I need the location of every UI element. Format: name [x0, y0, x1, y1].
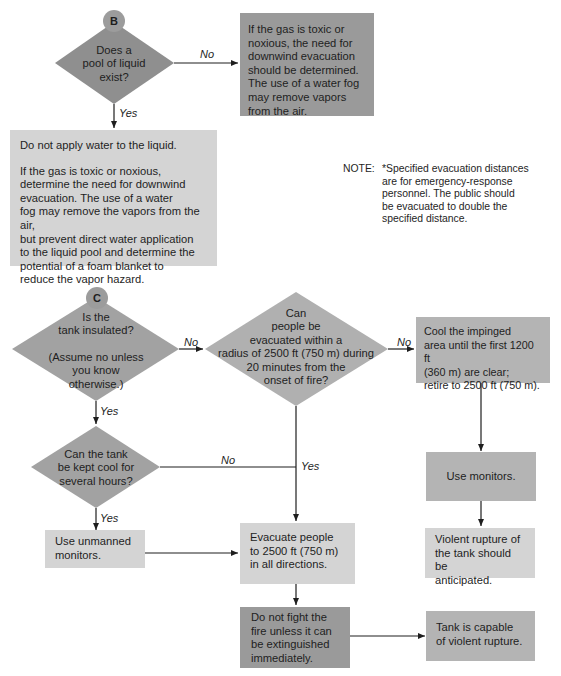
box-use-monitors: Use monitors.: [426, 452, 536, 501]
decision-insulated-text: Is the tank insulated? (Assume no unless…: [40, 311, 152, 391]
label-yes: Yes: [301, 460, 319, 472]
label-no: No: [397, 336, 411, 348]
box-use-unmanned-monitors: Use unmanned monitors.: [45, 530, 145, 568]
connector-b: B: [103, 10, 125, 32]
label-yes: Yes: [100, 405, 118, 417]
box-evacuate-people: Evacuate people to 2500 ft (750 m) in al…: [240, 523, 355, 584]
decision-pool-text: Does a pool of liquid exist?: [70, 44, 158, 84]
box-cool-impinged-area: Cool the impinged area until the first 1…: [416, 317, 550, 383]
label-yes: Yes: [100, 512, 118, 524]
box-toxic-gas: If the gas is toxic or noxious, the need…: [240, 13, 374, 116]
label-no: No: [221, 454, 235, 466]
box-do-not-fight-fire: Do not fight the fire unless it can be e…: [240, 607, 350, 668]
label-no: No: [184, 336, 198, 348]
decision-evacuate-text: Can people be evacuated within a radius …: [216, 307, 376, 387]
box-tank-capable-rupture: Tank is capable of violent rupture.: [426, 611, 535, 661]
decision-keep-cool-text: Can the tank be kept cool for several ho…: [50, 448, 142, 488]
connector-c: C: [86, 287, 108, 309]
label-no: No: [200, 48, 214, 60]
box-violent-rupture-anticipated: Violent rupture of the tank should be an…: [425, 528, 535, 578]
box-do-not-apply-water: Do not apply water to the liquid. If the…: [10, 130, 217, 266]
note-label: NOTE:: [343, 163, 375, 176]
label-yes: Yes: [119, 107, 137, 119]
note-text: *Specified evacuation distances are for …: [382, 163, 529, 226]
